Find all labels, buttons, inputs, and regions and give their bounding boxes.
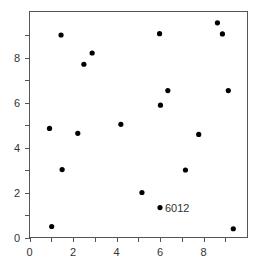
scatter-point (118, 122, 123, 127)
plot-frame (30, 12, 248, 238)
scatter-point (90, 50, 95, 55)
y-tick-label: 8 (14, 52, 20, 64)
y-tick-label: 4 (14, 142, 20, 154)
scatter-point (158, 103, 163, 108)
scatter-point (47, 126, 52, 131)
x-axis-ticks: 02468 (26, 237, 225, 258)
scatter-point (139, 190, 144, 195)
point-label: 6012 (165, 202, 189, 214)
x-tick-label: 4 (113, 246, 119, 258)
scatter-point (196, 132, 201, 137)
scatter-point (75, 131, 80, 136)
scatter-point (215, 20, 220, 25)
scatter-point (49, 224, 54, 229)
y-tick-label: 2 (14, 187, 20, 199)
scatter-point (157, 31, 162, 36)
scatter-point (58, 32, 63, 37)
data-points (47, 20, 236, 231)
annotations: 6012 (165, 202, 189, 214)
y-axis-ticks: 02468 (14, 36, 30, 244)
y-tick-label: 0 (14, 232, 20, 244)
scatter-chart: 02468 02468 6012 (0, 0, 255, 267)
x-tick-label: 2 (70, 246, 76, 258)
y-tick-label: 6 (14, 97, 20, 109)
x-tick-label: 8 (200, 246, 206, 258)
scatter-point (60, 167, 65, 172)
x-tick-label: 6 (157, 246, 163, 258)
scatter-point (157, 205, 162, 210)
scatter-point (183, 167, 188, 172)
scatter-point (165, 88, 170, 93)
x-tick-label: 0 (26, 246, 32, 258)
scatter-point (81, 62, 86, 67)
scatter-point (226, 88, 231, 93)
scatter-point (220, 31, 225, 36)
scatter-point (231, 226, 236, 231)
